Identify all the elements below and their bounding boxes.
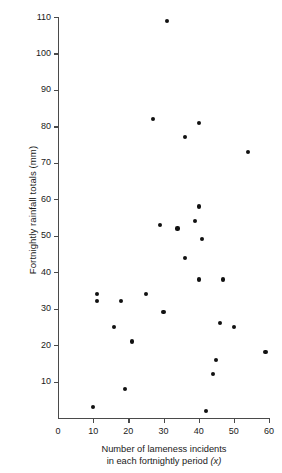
data-points-layer	[0, 0, 282, 473]
data-point	[130, 339, 134, 343]
data-point	[193, 219, 197, 223]
data-point	[161, 310, 165, 314]
data-point	[119, 299, 123, 303]
x-axis-title: Number of lameness incidents in each for…	[58, 443, 270, 467]
data-point	[263, 350, 267, 354]
data-point	[214, 358, 218, 362]
data-point	[211, 372, 215, 376]
scatter-chart-figure: 102030405060708090100110 0102030405060 F…	[0, 0, 282, 473]
x-axis-title-line2: in each fortnightly period (x)	[58, 455, 270, 467]
data-point	[197, 277, 201, 281]
data-point	[183, 135, 187, 139]
data-point	[95, 292, 99, 296]
data-point	[91, 405, 95, 409]
data-point	[232, 325, 236, 329]
x-axis-variable-symbol: (x)	[211, 456, 222, 466]
data-point	[204, 409, 208, 413]
data-point	[218, 321, 222, 325]
data-point	[144, 292, 148, 296]
x-axis-title-line1: Number of lameness incidents	[58, 443, 270, 455]
data-point	[197, 204, 201, 208]
data-point	[151, 117, 155, 121]
data-point	[197, 121, 201, 125]
data-point	[165, 19, 169, 23]
data-point	[158, 223, 162, 227]
data-point	[112, 325, 116, 329]
data-point	[175, 226, 179, 230]
data-point	[123, 387, 127, 391]
data-point	[221, 277, 225, 281]
data-point	[200, 237, 204, 241]
data-point	[183, 256, 187, 260]
x-axis-title-line2-text: in each fortnightly period	[107, 456, 208, 466]
data-point	[246, 150, 250, 154]
y-axis-title: Fortnightly rainfall totals (mm)	[28, 115, 38, 305]
data-point	[95, 299, 99, 303]
